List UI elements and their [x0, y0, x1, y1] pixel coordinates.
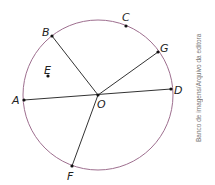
label-d: D [174, 84, 182, 97]
label-b: B [42, 26, 50, 39]
label-a: A [11, 94, 20, 107]
label-o: O [97, 98, 106, 111]
label-f: F [67, 170, 74, 183]
point-a [22, 98, 25, 101]
radius-of [72, 95, 98, 166]
point-b [50, 34, 53, 37]
radius-og [98, 52, 158, 95]
label-e: E [44, 64, 51, 77]
point-c [124, 24, 127, 27]
radius-ob [52, 36, 98, 95]
point-f [70, 164, 73, 167]
label-g: G [160, 42, 169, 55]
point-d [169, 87, 172, 90]
point-o [96, 93, 99, 96]
label-c: C [122, 11, 130, 24]
image-credit: Banco de imagens/Arquivo da editora [193, 32, 205, 144]
circle-diagram: A B C D E F G O [0, 0, 215, 185]
